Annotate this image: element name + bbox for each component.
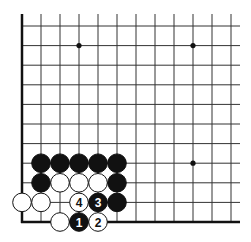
move-number: 3	[95, 196, 102, 210]
star-point	[190, 43, 195, 48]
go-board: 4312	[0, 0, 251, 242]
black-stone	[108, 193, 127, 212]
go-board-svg: 4312	[0, 0, 251, 242]
star-point	[190, 161, 195, 166]
white-stone	[32, 193, 51, 212]
black-stone	[51, 154, 70, 173]
white-stone	[51, 213, 70, 232]
black-stone	[32, 154, 51, 173]
white-stone	[89, 174, 108, 193]
move-number: 1	[76, 216, 83, 230]
black-stone	[32, 174, 51, 193]
white-stone	[51, 174, 70, 193]
black-stone	[108, 174, 127, 193]
black-stone	[108, 154, 127, 173]
move-number: 4	[76, 196, 83, 210]
white-stone	[70, 174, 89, 193]
black-stone	[70, 154, 89, 173]
white-stone	[13, 193, 32, 212]
star-point	[76, 43, 81, 48]
move-number: 2	[95, 216, 102, 230]
black-stone	[89, 154, 108, 173]
